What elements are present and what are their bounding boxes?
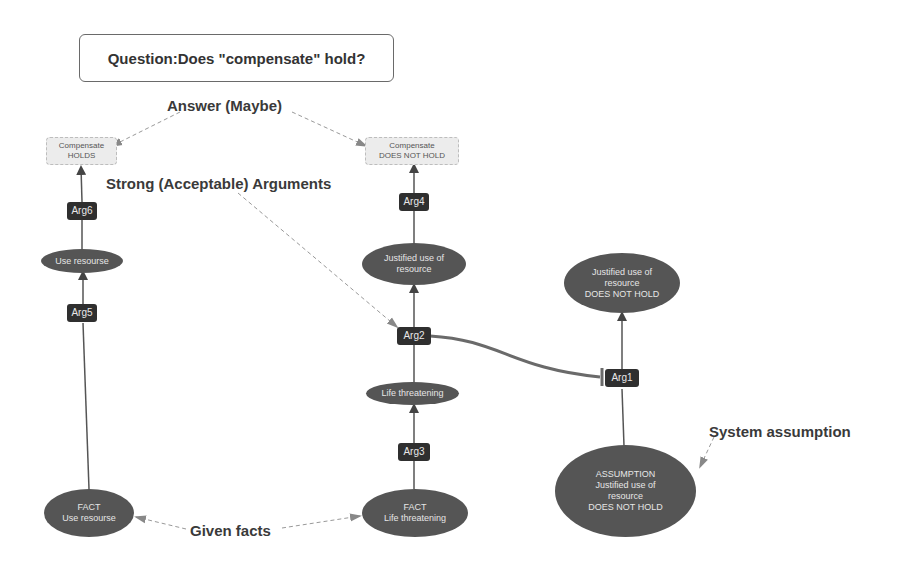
conclusion-line: DOES NOT HOLD: [370, 151, 454, 161]
arg1-node[interactable]: Arg1: [605, 369, 639, 387]
prop-text: FACT: [403, 502, 426, 513]
proposition-justified-use[interactable]: Justified use of resource: [362, 243, 466, 285]
prop-text: Life threatening: [381, 388, 443, 399]
answer-label: Answer (Maybe): [167, 97, 282, 114]
arg4-node[interactable]: Arg4: [399, 193, 429, 211]
fact-life-threatening[interactable]: FACT Life threatening: [362, 489, 468, 537]
conclusion-compensate-does-not-hold[interactable]: Compensate DOES NOT HOLD: [365, 137, 459, 165]
conclusion-compensate-holds[interactable]: Compensate HOLDS: [46, 137, 117, 165]
arg3-node[interactable]: Arg3: [398, 443, 430, 461]
proposition-life-threatening[interactable]: Life threatening: [366, 382, 459, 405]
given-facts-label: Given facts: [190, 522, 271, 539]
prop-text: Use resourse: [62, 513, 116, 524]
prop-text: Justified use of: [592, 267, 652, 278]
prop-text: DOES NOT HOLD: [588, 502, 662, 513]
question-box: Question:Does "compensate" hold?: [79, 34, 394, 82]
conclusion-line: HOLDS: [51, 151, 112, 161]
prop-text: resource: [396, 264, 431, 275]
assumption-justified-not-hold[interactable]: ASSUMPTION Justified use of resource DOE…: [555, 445, 696, 537]
conclusion-line: Compensate: [51, 141, 112, 151]
system-assumption-label: System assumption: [709, 423, 851, 440]
proposition-justified-not-hold[interactable]: Justified use of resource DOES NOT HOLD: [564, 253, 680, 313]
arg2-node[interactable]: Arg2: [397, 327, 431, 345]
prop-text: FACT: [77, 502, 100, 513]
prop-text: resource: [604, 278, 639, 289]
prop-text: ASSUMPTION: [596, 469, 656, 480]
proposition-use-resourse[interactable]: Use resourse: [41, 249, 123, 273]
arg6-node[interactable]: Arg6: [67, 202, 97, 220]
prop-text: Justified use of: [595, 480, 655, 491]
prop-text: Justified use of: [384, 253, 444, 264]
fact-use-resourse[interactable]: FACT Use resourse: [44, 489, 134, 537]
strong-arguments-label: Strong (Acceptable) Arguments: [106, 175, 331, 192]
prop-text: Life threatening: [384, 513, 446, 524]
arg5-node[interactable]: Arg5: [67, 304, 97, 322]
prop-text: Use resourse: [55, 256, 109, 267]
diagram-edges: [0, 0, 903, 578]
prop-text: resource: [608, 491, 643, 502]
conclusion-line: Compensate: [370, 141, 454, 151]
prop-text: DOES NOT HOLD: [585, 289, 659, 300]
